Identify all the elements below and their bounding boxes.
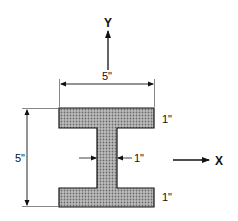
y-axis-label: Y bbox=[104, 16, 112, 30]
height-dimension: 5" bbox=[15, 109, 58, 207]
web-thickness-label: 1" bbox=[134, 152, 144, 164]
overall-height-label: 5" bbox=[15, 152, 25, 164]
flange-width-dimension: 5" bbox=[60, 70, 155, 107]
x-axis: X bbox=[173, 154, 223, 168]
bottom-flange-thickness-label: 1" bbox=[162, 191, 172, 203]
flange-width-label: 5" bbox=[102, 70, 112, 82]
top-flange-thickness-label: 1" bbox=[162, 113, 172, 125]
i-beam-diagram: Y 5" 5" 1" 1" 1" X bbox=[0, 0, 238, 221]
y-axis: Y bbox=[104, 16, 112, 70]
x-axis-label: X bbox=[215, 154, 223, 168]
